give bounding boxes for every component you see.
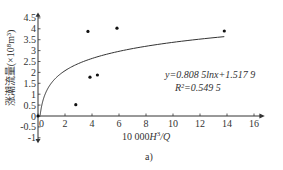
data-point	[96, 73, 99, 76]
svg-text:4.5: 4.5	[24, 12, 37, 23]
data-point	[115, 27, 118, 30]
svg-text:3: 3	[31, 45, 36, 56]
x-axis-label: 10 000H3/Q	[122, 130, 171, 142]
scatter-chart: 02468101214164.543.532.521.510.50-0.5-1 …	[0, 0, 283, 170]
data-point	[74, 103, 77, 106]
svg-text:8: 8	[144, 118, 149, 129]
data-point	[86, 30, 89, 33]
svg-text:0.5: 0.5	[24, 100, 37, 111]
svg-text:4: 4	[90, 118, 95, 129]
svg-text:2: 2	[63, 118, 68, 129]
svg-text:2.5: 2.5	[24, 56, 37, 67]
data-point	[36, 114, 39, 117]
svg-text:4: 4	[31, 23, 36, 34]
svg-text:6: 6	[117, 118, 122, 129]
panel-label: a)	[145, 151, 153, 163]
svg-text:1: 1	[31, 89, 36, 100]
data-point	[88, 76, 91, 79]
data-point	[223, 29, 226, 32]
svg-text:-1: -1	[28, 132, 36, 143]
svg-text:0: 0	[31, 111, 36, 122]
r-squared-label: R²=0.549 5	[174, 82, 221, 93]
svg-text:-0.5: -0.5	[20, 121, 36, 132]
svg-text:2: 2	[31, 67, 36, 78]
svg-text:12: 12	[195, 118, 205, 129]
svg-text:16: 16	[249, 118, 259, 129]
svg-text:3.5: 3.5	[24, 34, 37, 45]
svg-text:14: 14	[222, 118, 232, 129]
svg-text:10: 10	[168, 118, 178, 129]
svg-text:0: 0	[39, 118, 44, 129]
y-axis-label: 涨潮流量(×10⁸m³)	[4, 30, 17, 107]
equation-label: y=0.808 5lnx+1.517 9	[164, 69, 255, 80]
svg-text:1.5: 1.5	[24, 78, 37, 89]
